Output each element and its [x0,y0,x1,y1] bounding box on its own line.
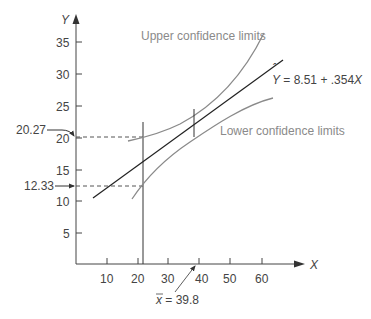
y-tick-label: 20 [56,132,70,146]
x-axis-arrow-icon [294,261,305,268]
x-tick-label: 10 [100,272,114,286]
hat-icon: ˆ [273,62,277,76]
y-tick-label: 30 [56,68,70,82]
equation-x: X [353,73,363,87]
upper-confidence-label: Upper confidence limits [141,29,266,43]
svg-text:Y = 8.51 + .354X: Y = 8.51 + .354X [272,73,363,87]
y-tick-label: 5 [63,227,70,241]
x-axis: X 10 20 30 40 50 60 [76,258,319,286]
y-tick-label: 15 [56,164,70,178]
equation-body: = 8.51 + .354 [280,73,354,87]
y-tick-label: 25 [56,100,70,114]
x-tick-label: 50 [223,272,237,286]
lower-guide-label: 12.33 [24,179,54,193]
lower-confidence-label: Lower confidence limits [220,124,345,138]
confidence-interval-chart: Y 35 30 25 20 15 10 5 X [0,0,371,319]
y-axis-arrow-icon [73,14,80,24]
y-tick-label: 35 [56,36,70,50]
upper-guide-label: 20.27 [16,123,46,137]
x-tick-label: 20 [131,272,145,286]
x-ticks [107,258,262,264]
xbar-label: x = 39.8 [155,293,199,307]
xbar-arrow-icon [175,266,195,292]
regression-equation: Y = 8.51 + .354X ˆ [272,62,363,87]
y-tick-label: 10 [56,195,70,209]
x-tick-label: 60 [255,272,269,286]
x-tick-label: 40 [195,272,209,286]
x-axis-label: X [309,258,319,272]
y-axis-label: Y [61,13,70,27]
y-axis: Y 35 30 25 20 15 10 5 [56,13,82,264]
lower-confidence-curve [132,98,273,199]
x-tick-label: 30 [161,272,175,286]
